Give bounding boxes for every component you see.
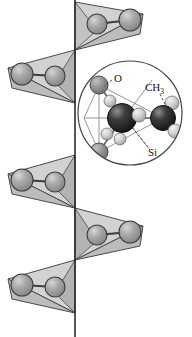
tet4-oxygen-sphere-a [87, 225, 107, 245]
tet5-oxygen-sphere-a [45, 277, 65, 297]
tet2-oxygen-sphere-a [45, 66, 65, 86]
carbon-sphere-left [108, 104, 137, 133]
tet3-oxygen-sphere-b [11, 169, 33, 191]
pdms-chain-figure: O CH3 Si [0, 0, 192, 337]
hydrogen-sphere-3 [132, 108, 146, 122]
tet1-oxygen-sphere-b [119, 9, 141, 31]
hydrogen-sphere-4 [114, 133, 126, 145]
magnified-inset: O CH3 Si [78, 61, 182, 165]
label-oxygen: O [114, 72, 122, 84]
figure-canvas: O CH3 Si [0, 0, 192, 337]
tet5-oxygen-sphere-b [11, 274, 33, 296]
label-methyl-element: CH [145, 81, 160, 93]
label-silicon: Si [148, 146, 157, 158]
label-methyl-subscript: 3 [160, 87, 164, 96]
tet2-oxygen-sphere-b [11, 63, 33, 85]
hydrogen-sphere-2 [101, 128, 113, 140]
tet4-oxygen-sphere-b [119, 221, 141, 243]
tet3-oxygen-sphere-a [45, 172, 65, 192]
oxygen-atom-top [90, 76, 108, 94]
tet1-oxygen-sphere-a [87, 14, 107, 34]
